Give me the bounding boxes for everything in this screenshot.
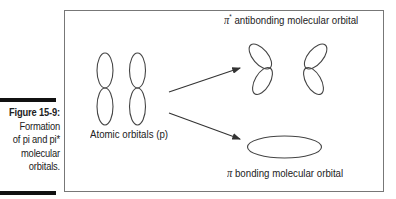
- star-superscript: *: [229, 13, 231, 20]
- bonding-label: π bonding molecular orbital: [227, 166, 343, 181]
- bonding-orbital: [248, 136, 322, 158]
- antibonding-lobes-left: [245, 40, 277, 98]
- p-orbital-2: [130, 53, 146, 125]
- arrow-to-bonding: [169, 113, 240, 139]
- antibonding-label: π* antibonding molecular orbital: [224, 13, 358, 28]
- antibonding-lobes-right: [300, 40, 332, 98]
- bonding-text: bonding molecular orbital: [235, 167, 343, 179]
- atomic-orbitals-label: Atomic orbitals (p): [90, 128, 168, 140]
- atomic-orbitals-text: Atomic orbitals (p): [90, 128, 168, 140]
- p-orbital-1: [97, 53, 113, 125]
- arrow-to-antibonding: [169, 68, 240, 92]
- antibonding-text: antibonding molecular orbital: [234, 14, 358, 26]
- pi-symbol: π: [227, 166, 232, 180]
